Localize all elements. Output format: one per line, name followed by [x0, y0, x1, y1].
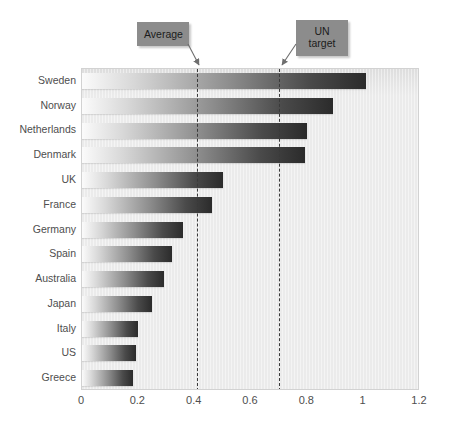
y-label-sweden: Sweden	[0, 75, 76, 86]
y-label-spain: Spain	[0, 248, 76, 259]
callout-un-target-label: UN	[314, 25, 329, 37]
y-label-us: US	[0, 347, 76, 358]
bar-greece	[82, 370, 133, 386]
bar-australia	[82, 271, 164, 287]
arrow-average	[188, 44, 199, 65]
y-label-australia: Australia	[0, 273, 76, 284]
bar-germany	[82, 222, 183, 238]
y-label-france: France	[0, 199, 76, 210]
callout-un-target-label-line2: target	[303, 37, 341, 49]
bar-netherlands	[82, 123, 307, 139]
bar-row	[82, 69, 419, 94]
bar-italy	[82, 321, 138, 337]
bar-chart: SwedenNorwayNetherlandsDenmarkUKFranceGe…	[0, 0, 455, 434]
y-label-germany: Germany	[0, 224, 76, 235]
y-label-japan: Japan	[0, 298, 76, 309]
y-label-denmark: Denmark	[0, 149, 76, 160]
bar-row	[82, 317, 419, 342]
bar-row	[82, 267, 419, 292]
bar-row	[82, 218, 419, 243]
bar-row	[82, 292, 419, 317]
bar-row	[82, 143, 419, 168]
bar-row	[82, 94, 419, 119]
x-axis-labels: 00.20.40.60.811.2	[81, 394, 419, 414]
y-label-greece: Greece	[0, 372, 76, 383]
x-tick-0.4: 0.4	[186, 394, 201, 406]
bar-row	[82, 366, 419, 390]
reference-line-un-target	[279, 69, 280, 390]
plot-area	[81, 68, 419, 390]
bar-spain	[82, 246, 172, 262]
bar-japan	[82, 296, 152, 312]
bar-row	[82, 193, 419, 218]
reference-line-average	[197, 69, 198, 390]
bar-france	[82, 197, 212, 213]
bar-row	[82, 119, 419, 144]
callout-average-label: Average	[144, 28, 183, 40]
y-label-uk: UK	[0, 174, 76, 185]
callout-un-target: UN target	[296, 20, 348, 56]
y-axis-labels: SwedenNorwayNetherlandsDenmarkUKFranceGe…	[0, 68, 76, 390]
arrow-un-target	[282, 44, 296, 65]
y-label-norway: Norway	[0, 100, 76, 111]
bar-norway	[82, 98, 333, 114]
x-tick-0.2: 0.2	[130, 394, 145, 406]
y-label-netherlands: Netherlands	[0, 124, 76, 135]
x-tick-0.8: 0.8	[299, 394, 314, 406]
x-tick-0.6: 0.6	[242, 394, 257, 406]
bar-uk	[82, 172, 223, 188]
bar-row	[82, 341, 419, 366]
x-tick-1: 1	[360, 394, 366, 406]
bar-sweden	[82, 73, 366, 89]
bar-denmark	[82, 147, 305, 163]
callout-average: Average	[137, 22, 189, 46]
x-tick-0: 0	[78, 394, 84, 406]
bar-row	[82, 168, 419, 193]
y-label-italy: Italy	[0, 323, 76, 334]
bar-series	[82, 69, 418, 389]
bar-us	[82, 345, 136, 361]
bar-row	[82, 242, 419, 267]
x-tick-1.2: 1.2	[411, 394, 426, 406]
